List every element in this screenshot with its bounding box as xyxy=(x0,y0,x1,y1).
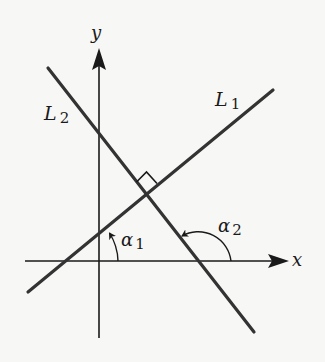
line-l2-label: L2 xyxy=(43,102,69,127)
diagram-canvas: x y L1 L2 α1 α2 xyxy=(0,0,325,362)
line-l1-label: L1 xyxy=(214,88,240,113)
x-axis-label: x xyxy=(292,249,302,270)
y-axis-label: y xyxy=(90,22,102,43)
right-angle-marker xyxy=(137,172,158,184)
angle-alpha1 xyxy=(110,233,119,261)
angle-alpha2-label: α2 xyxy=(218,215,242,239)
y-axis: y xyxy=(90,22,106,338)
angle-alpha2 xyxy=(182,232,231,261)
angle-alpha1-label: α1 xyxy=(121,229,145,253)
